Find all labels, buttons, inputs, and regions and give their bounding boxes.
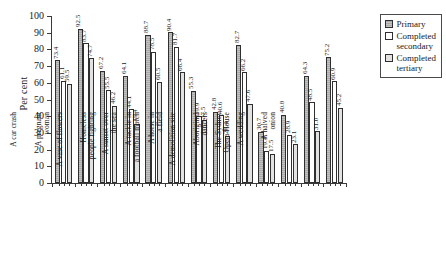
- x-axis-minor-tick: [308, 183, 309, 186]
- x-axis-minor-tick: [313, 183, 314, 186]
- x-axis-minor-tick: [69, 183, 70, 186]
- bar: [293, 144, 298, 183]
- bar-value-label: 92.5: [75, 15, 82, 27]
- legend-item-label: Completed secondary: [397, 31, 437, 51]
- x-axis-minor-tick: [285, 183, 286, 186]
- x-axis-category-label: A demolition site: [169, 112, 177, 190]
- y-axis-tick-label: 50: [14, 96, 44, 104]
- bar-value-label: 45.2: [336, 94, 343, 106]
- x-axis-category-label: A car crash: [10, 112, 18, 190]
- bar-value-label: 48.5: [307, 88, 314, 100]
- bar-group: 64.348.531.0: [304, 16, 321, 183]
- y-axis-tick-label: 60: [14, 79, 44, 87]
- y-axis-tick-label: 100: [14, 12, 44, 20]
- x-axis-category-label: A wedding: [237, 112, 245, 190]
- bar-value-label: 78.5: [149, 38, 156, 50]
- bar-value-label: 64.3: [302, 62, 309, 74]
- bar-value-label: 60.9: [330, 68, 337, 80]
- x-axis-tick-mark: [120, 183, 121, 187]
- x-axis-minor-tick: [318, 183, 319, 186]
- x-axis-category-label: The Sydney Opera House: [215, 112, 231, 190]
- bar-value-label: 75.2: [324, 44, 331, 56]
- bar-value-label: 44.1: [126, 96, 133, 108]
- x-axis-minor-tick: [340, 183, 341, 186]
- bar-value-label: 83.7: [81, 29, 88, 41]
- bar-group: 75.260.945.2: [326, 16, 343, 183]
- x-axis-minor-tick: [182, 183, 183, 186]
- legend-item: Completed secondary: [385, 31, 437, 51]
- x-axis-tick-mark: [142, 183, 143, 187]
- bar-value-label: 88.7: [143, 21, 150, 33]
- bar-value-label: 64.1: [121, 62, 128, 74]
- bar-value-label: 67.2: [98, 57, 105, 69]
- x-axis-tick-mark: [256, 183, 257, 187]
- x-axis-category-label: A pregnant woman: [35, 112, 51, 190]
- x-axis-category-label: Homeless people fighting: [80, 112, 96, 190]
- x-axis-minor-tick: [335, 183, 336, 186]
- x-axis-tick-mark: [301, 183, 302, 187]
- legend-swatch-icon: [385, 32, 393, 40]
- bar-value-label: 73.4: [53, 47, 60, 59]
- bar-value-label: 90.4: [166, 18, 173, 30]
- chart-legend: PrimaryCompleted secondaryCompleted tert…: [380, 14, 443, 78]
- bar-value-label: 23.1: [291, 131, 298, 143]
- bar: [315, 131, 320, 183]
- bar-value-label: 74.7: [87, 45, 94, 57]
- x-axis-category-label: A vase of flowers: [56, 112, 64, 190]
- x-axis-minor-tick: [295, 183, 296, 186]
- bar-value-label: 60.5: [155, 68, 162, 80]
- bar-value-label: 31.0: [313, 117, 320, 129]
- bar: [67, 84, 72, 183]
- bar-value-label: 47.6: [245, 90, 252, 102]
- bar-value-label: 82.7: [234, 31, 241, 43]
- x-axis-tick-mark: [75, 183, 76, 187]
- bar: [338, 108, 343, 183]
- x-axis-minor-tick: [250, 183, 251, 186]
- x-axis-category-label: A horse in a field: [148, 112, 164, 190]
- legend-swatch-icon: [385, 20, 393, 28]
- bar: [247, 104, 252, 183]
- bar-value-label: 55.3: [188, 77, 195, 89]
- bar-group: 40.828.923.1: [281, 16, 298, 183]
- bar-value-label: 46.2: [110, 92, 117, 104]
- x-axis-tick-mark: [233, 183, 234, 187]
- bar-value-label: 66.4: [177, 58, 184, 70]
- x-axis-tick-mark: [188, 183, 189, 187]
- bar-chart: Per cent 0102030405060708090100 73.461.1…: [0, 0, 446, 271]
- x-axis-category-label: A sunset over the sea: [102, 112, 118, 190]
- y-axis-tick-label: 70: [14, 62, 44, 70]
- x-axis-tick-mark: [346, 183, 347, 187]
- bar-value-label: 55.5: [104, 77, 111, 89]
- bar-value-label: 81.7: [172, 33, 179, 45]
- legend-item: Completed tertiary: [385, 53, 437, 73]
- x-axis-category-label: Aboriginal dancers: [193, 112, 209, 190]
- legend-item-label: Completed tertiary: [397, 53, 437, 73]
- x-axis-tick-mark: [97, 183, 98, 187]
- bar: [180, 72, 185, 183]
- y-axis-tick-label: 80: [14, 45, 44, 53]
- x-axis-minor-tick: [290, 183, 291, 186]
- bar-value-label: 40.8: [279, 101, 286, 113]
- bar-value-label: 59.5: [64, 70, 71, 82]
- y-axis-tick-label: 90: [14, 29, 44, 37]
- x-axis-category-label: A tackle in a football match: [125, 112, 141, 190]
- x-axis-category-label: A halved onion: [261, 112, 277, 190]
- legend-item: Primary: [385, 19, 437, 29]
- x-axis-tick-mark: [52, 183, 53, 187]
- legend-item-label: Primary: [397, 19, 426, 29]
- x-axis-tick-mark: [278, 183, 279, 187]
- bar-value-label: 66.2: [240, 59, 247, 71]
- x-axis-tick-mark: [165, 183, 166, 187]
- x-axis-tick-mark: [210, 183, 211, 187]
- x-axis-tick-mark: [323, 183, 324, 187]
- bar: [309, 102, 314, 183]
- legend-swatch-icon: [385, 54, 393, 62]
- x-axis-minor-tick: [330, 183, 331, 186]
